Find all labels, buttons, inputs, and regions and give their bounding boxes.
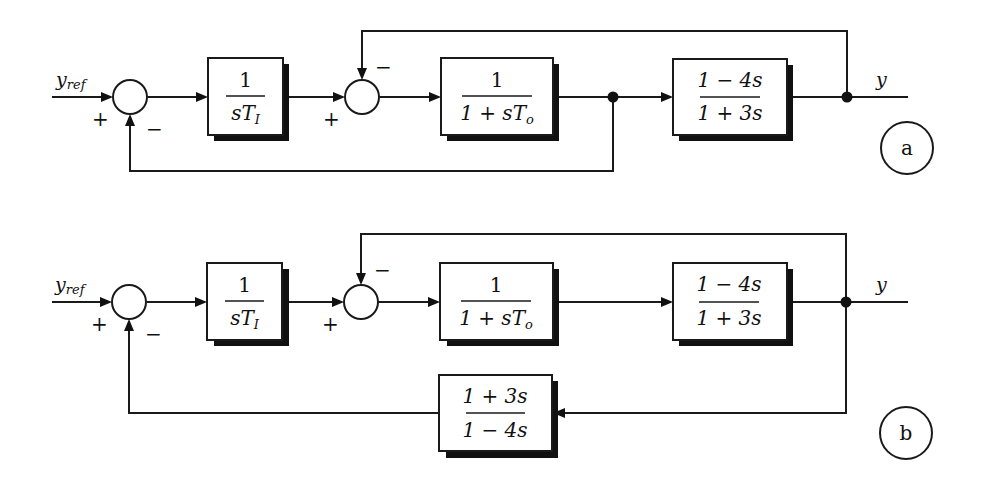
- svg-text:1 − 4s: 1 − 4s: [697, 68, 762, 92]
- arrow-icon: [428, 297, 440, 307]
- summing-junction-2: [344, 285, 378, 319]
- sign-minus: −: [145, 322, 162, 346]
- svg-text:1: 1: [238, 273, 251, 297]
- block-diagram-figure: + − + − yref y 1 sTI 1 1 + sTo: [0, 0, 987, 487]
- summing-junction-1: [113, 80, 147, 114]
- output-label-y: y: [875, 273, 887, 295]
- diagram-label-a: a: [901, 136, 913, 160]
- svg-text:1: 1: [490, 273, 503, 297]
- output-label-y: y: [875, 68, 887, 90]
- svg-text:1 + 3s: 1 + 3s: [696, 306, 761, 330]
- arrow-icon: [356, 273, 366, 285]
- arrow-icon: [100, 297, 112, 307]
- svg-text:1: 1: [491, 68, 504, 92]
- block-nonminimum-phase: 1 − 4s 1 + 3s: [673, 263, 793, 346]
- sign-plus: +: [322, 312, 339, 336]
- pickoff-point: [608, 92, 619, 103]
- diagram-label-b: b: [900, 421, 913, 445]
- arrow-icon: [429, 92, 441, 102]
- block-nonminimum-phase: 1 − 4s 1 + 3s: [673, 59, 793, 141]
- arrow-icon: [101, 92, 113, 102]
- svg-text:1 − 4s: 1 − 4s: [462, 418, 527, 442]
- sign-plus: +: [323, 107, 340, 131]
- block-first-order-lag: 1 1 + sTo: [440, 263, 559, 346]
- block-first-order-lag: 1 1 + sTo: [441, 58, 559, 141]
- input-label-yref: yref: [54, 273, 87, 297]
- svg-text:1 + 3s: 1 + 3s: [697, 101, 762, 125]
- diagram-a: + − + − yref y 1 sTI 1 1 + sTo: [52, 31, 933, 174]
- pickoff-point: [842, 92, 853, 103]
- sign-minus: −: [146, 117, 163, 141]
- arrow-icon: [124, 319, 134, 331]
- sign-plus: +: [92, 107, 109, 131]
- arrow-icon: [195, 297, 207, 307]
- arrow-icon: [661, 92, 673, 102]
- block-integrator: 1 sTI: [207, 263, 289, 346]
- summing-junction-2: [345, 80, 379, 114]
- arrow-icon: [332, 297, 344, 307]
- svg-text:1 + 3s: 1 + 3s: [462, 384, 527, 408]
- block-integrator: 1 sTI: [208, 58, 289, 141]
- arrow-icon: [333, 92, 345, 102]
- sign-minus: −: [374, 258, 391, 282]
- summing-junction-1: [112, 285, 146, 319]
- svg-text:1 + sTo: 1 + sTo: [460, 101, 534, 127]
- sign-minus: −: [375, 55, 392, 79]
- svg-text:1: 1: [239, 68, 252, 92]
- arrow-icon: [196, 92, 208, 102]
- arrow-icon: [125, 114, 135, 126]
- block-inverse-compensator: 1 + 3s 1 − 4s: [439, 375, 558, 458]
- input-label-yref: yref: [55, 68, 88, 92]
- diagram-b: + − + − yref y 1 sTI 1 1 + sTo 1 −: [52, 234, 932, 459]
- svg-text:1 − 4s: 1 − 4s: [696, 272, 761, 296]
- arrow-icon: [661, 297, 673, 307]
- sign-plus: +: [91, 312, 108, 336]
- arrow-icon: [357, 68, 367, 80]
- svg-text:1 + sTo: 1 + sTo: [459, 306, 533, 332]
- pickoff-point: [841, 297, 852, 308]
